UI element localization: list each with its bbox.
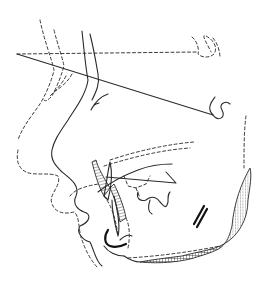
- upper-incisor: [92, 160, 126, 222]
- soft-tissue-profile: [52, 31, 176, 266]
- tracing-canvas: [0, 0, 262, 292]
- dashed-profile: [17, 20, 246, 268]
- mandible-symphysis: [124, 168, 251, 263]
- molar-teeth: [137, 192, 170, 214]
- cephalometric-diagram: Lateral profile tracing: soft tissue out…: [0, 0, 262, 292]
- double-slash-mark: [194, 206, 207, 227]
